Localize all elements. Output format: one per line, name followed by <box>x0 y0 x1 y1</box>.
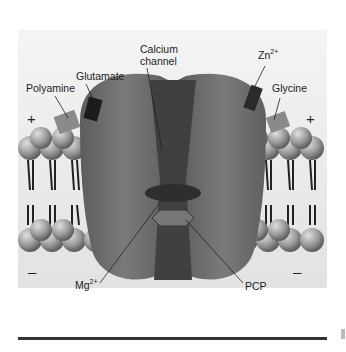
receptor-protein <box>80 74 266 280</box>
magnesium-ring <box>145 184 201 202</box>
zinc-symbol: Zn <box>258 49 270 61</box>
label-glycine: Glycine <box>272 82 307 94</box>
sign-minus-left: – <box>28 263 36 280</box>
label-pcp: PCP <box>245 280 267 292</box>
sign-plus-left: + <box>27 110 36 127</box>
label-glutamate: Glutamate <box>76 70 124 82</box>
glycine-block <box>266 111 290 133</box>
zinc-charge: 2+ <box>270 48 278 55</box>
magnesium-symbol: Mg <box>75 279 90 291</box>
label-calcium-line1: Calcium <box>140 43 178 55</box>
sign-minus-right: – <box>293 263 301 280</box>
label-calcium-line2: channel <box>140 55 177 67</box>
edge-mark <box>341 329 345 339</box>
label-magnesium: Mg2+ <box>75 278 98 291</box>
sign-plus-right: + <box>306 110 315 127</box>
magnesium-charge: 2+ <box>90 278 98 285</box>
pcp-site <box>152 210 194 226</box>
bottom-rule <box>18 337 327 340</box>
label-polyamine: Polyamine <box>26 82 75 94</box>
label-zinc: Zn2+ <box>258 48 278 61</box>
